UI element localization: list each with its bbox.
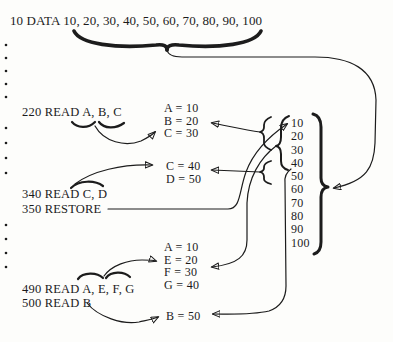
read220-result-arrow: [212, 123, 260, 132]
read490-swoosh-icon: [106, 273, 130, 278]
read340-result-arrow: [212, 170, 260, 172]
read220-assign-arrow: [95, 126, 155, 143]
ellipsis-dots: [5, 44, 8, 269]
read340-items-brace-icon: [260, 161, 271, 184]
diagram-canvas: 10 DATA 10, 20, 30, 40, 50, 60, 70, 80, …: [0, 0, 393, 342]
restore-pointer-arrow: [108, 124, 287, 209]
read500-assign-arrow: [87, 303, 158, 323]
data-column-brace-icon: [313, 114, 328, 254]
read490-result-arrow: [212, 146, 276, 267]
read220-swoosh-icon: [72, 122, 95, 127]
read490-swoosh-icon: [78, 274, 103, 279]
diagram-connectors: [0, 0, 393, 342]
data-to-column-arrow: [167, 50, 376, 188]
read500-item-arrow: [213, 169, 291, 314]
data-underbrace-left-icon: [74, 31, 167, 50]
data-underbrace-right-icon: [167, 31, 261, 50]
read220-swoosh-icon: [99, 122, 124, 127]
read220-items-brace-icon: [260, 117, 271, 150]
